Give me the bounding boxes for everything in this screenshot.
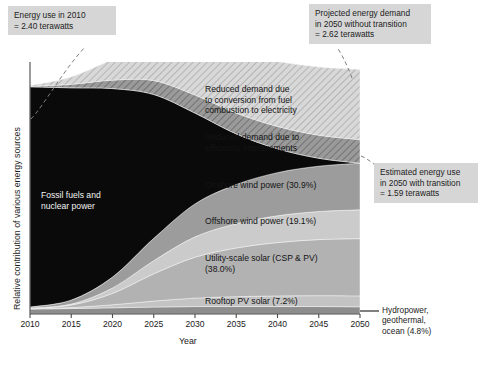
annotation-projected-demand-2050: Projected energy demand in 2050 without … (309, 4, 431, 44)
energy-transition-figure: Energy use in 2010 = 2.40 terawatts Proj… (0, 0, 481, 366)
x-tick-label-2020: 2020 (96, 319, 130, 329)
annotation-energy-use-2010: Energy use in 2010 = 2.40 terawatts (8, 6, 116, 35)
x-tick-label-2010: 2010 (13, 319, 47, 329)
annotation-estimated-use-2050-transition: Estimated energy use in 2050 with transi… (374, 163, 478, 203)
x-tick-label-2050: 2050 (343, 319, 377, 329)
area-series-group (30, 43, 360, 314)
x-tick-label-2030: 2030 (178, 319, 212, 329)
x-tick-label-2025: 2025 (137, 319, 171, 329)
x-tick-label-2045: 2045 (302, 319, 336, 329)
y-axis-title: Relative contribution of various energy … (12, 127, 22, 310)
annotation-hydropower-geothermal-ocean: Hydropower, geothermal, ocean (4.8%) (382, 305, 478, 336)
x-axis-title: Year (179, 336, 197, 346)
x-axis-ticks (30, 314, 360, 318)
x-tick-label-2040: 2040 (261, 319, 295, 329)
x-tick-label-2035: 2035 (219, 319, 253, 329)
x-tick-label-2015: 2015 (54, 319, 88, 329)
